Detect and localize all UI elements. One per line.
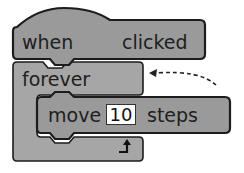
steps-label: steps [147, 106, 198, 125]
dashed-curved-arrow-icon [149, 69, 216, 85]
when-label: when [22, 33, 73, 52]
forever-label: forever [22, 70, 90, 89]
green-flag-icon [80, 30, 110, 54]
steps-input[interactable] [106, 104, 136, 125]
move-label: move [48, 106, 101, 125]
clicked-label: clicked [122, 33, 188, 52]
